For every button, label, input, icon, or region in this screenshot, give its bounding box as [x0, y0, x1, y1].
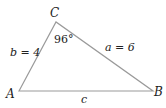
side-b-label: b = 4	[10, 47, 40, 58]
vertex-b-label: B	[154, 86, 163, 98]
vertex-a-label: A	[6, 88, 15, 100]
angle-c-label: 96°	[54, 34, 74, 45]
side-a-label: a = 6	[105, 42, 135, 53]
vertex-c-label: C	[50, 7, 59, 19]
side-c-label: c	[81, 94, 87, 105]
